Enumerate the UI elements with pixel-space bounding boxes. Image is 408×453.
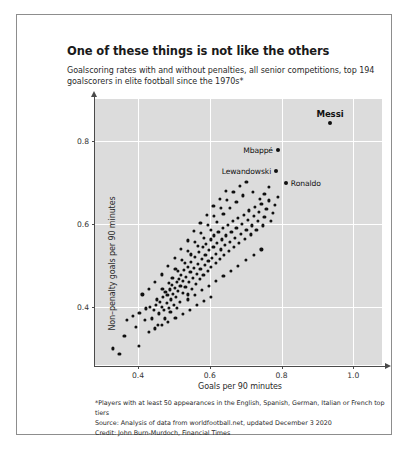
- footnote-source: Source: Analysis of data from worldfootb…: [95, 419, 395, 429]
- annotation-ronaldo: Ronaldo: [291, 179, 321, 188]
- x-tick-mark: [282, 366, 283, 369]
- gridline-vertical: [353, 99, 354, 365]
- x-tick-label: 0.8: [267, 371, 297, 380]
- y-tick-mark: [92, 141, 95, 142]
- y-tick-label: 0.4: [63, 302, 89, 311]
- chart-subtitle: Goalscoring rates with and without penal…: [67, 65, 387, 87]
- chart-title: One of these things is not like the othe…: [67, 45, 397, 59]
- annotation-messi: Messi: [316, 109, 343, 119]
- y-tick-mark: [92, 224, 95, 225]
- y-axis-label: Non–penalty goals per 90 minutes: [108, 184, 117, 344]
- chart-card: One of these things is not like the othe…: [16, 14, 392, 435]
- x-axis-label: Goals per 90 minutes: [94, 382, 386, 391]
- gridline-vertical: [210, 99, 211, 365]
- x-tick-mark: [138, 366, 139, 369]
- footnote-methodology: *Players with at least 50 appearances in…: [95, 399, 395, 419]
- y-tick-mark: [92, 307, 95, 308]
- y-tick-label: 0.6: [63, 219, 89, 228]
- x-tick-mark: [210, 366, 211, 369]
- gridline-vertical: [282, 99, 283, 365]
- footnote-credit: Credit: John Burn-Murdoch, Financial Tim…: [95, 429, 395, 439]
- y-tick-label: 0.8: [63, 136, 89, 145]
- x-tick-label: 0.6: [195, 371, 225, 380]
- scatter-point: [284, 181, 288, 185]
- x-tick-mark: [353, 366, 354, 369]
- scatter-point: [328, 121, 332, 125]
- x-axis-arrow: [385, 363, 391, 369]
- x-tick-label: 0.4: [123, 371, 153, 380]
- annotation-lewandowski: Lewandowski: [222, 166, 272, 175]
- x-tick-label: 1.0: [338, 371, 368, 380]
- plot-area: MessiMbappéLewandowskiRonaldo Non–penalt…: [95, 99, 382, 365]
- scatter-point: [276, 148, 280, 152]
- scatter-point: [274, 169, 278, 173]
- annotation-mbapp: Mbappé: [243, 145, 273, 154]
- footnotes: *Players with at least 50 appearances in…: [95, 399, 395, 439]
- gridline-vertical: [138, 99, 139, 365]
